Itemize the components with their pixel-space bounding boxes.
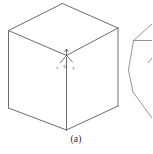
cube-edge-top-front-left (9, 31, 67, 56)
axis-y-line (67, 56, 73, 63)
cube-edge-bottom-right (67, 106, 119, 130)
figure-caption: (a) (0, 134, 152, 144)
axis-origin-label: O (63, 64, 66, 69)
axis-x-label: x (56, 65, 59, 70)
cube-edge-top-back-right (63, 4, 119, 29)
partial-polygon-edge-lower-left (129, 70, 134, 92)
partial-polygon-edge-bottom (133, 92, 152, 118)
figure-container: x O y (a) (0, 0, 152, 154)
partial-polygon-edge-inner (148, 58, 152, 63)
partial-polygon-edge-upper-left (129, 41, 134, 71)
partial-polygon-right (129, 24, 153, 118)
axis-y-label: y (73, 65, 76, 70)
cube-edge-top-front-right (67, 28, 119, 56)
cube-edge-top-back-left (9, 4, 63, 31)
cube-top-face (9, 4, 119, 56)
axis-x-line (61, 56, 67, 63)
cube-bottom-face (9, 106, 119, 130)
cube-edge-bottom-left (9, 108, 67, 130)
figure-drawing: x O y (0, 0, 152, 154)
partial-polygon-edge-top (134, 24, 153, 41)
